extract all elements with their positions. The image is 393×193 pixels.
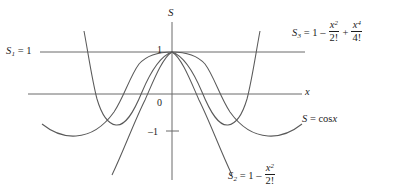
cos-symbol: S [302, 113, 307, 124]
origin-label: 0 [157, 98, 162, 108]
s1-symbol: S [6, 45, 11, 56]
s2-subscript: 2 [234, 175, 238, 183]
y-axis-label: S [168, 7, 174, 18]
x-axis-label: x [305, 87, 310, 98]
cos-equals: = [310, 113, 316, 124]
s3-first-fraction-denominator: 2! [329, 32, 340, 43]
s2-symbol: S [228, 170, 233, 181]
s3-minus-operator: – [320, 27, 325, 38]
s3-first-fraction-numerator: x2 [329, 20, 340, 32]
s3-equals: = [304, 27, 310, 38]
label-s3: S3 = 1 – x2 2! + x4 4! [292, 20, 363, 43]
y-tick-label-negative-one: –1 [148, 127, 158, 137]
s2-fraction-denominator: 2! [265, 175, 276, 186]
s3-second-fraction-denominator: 4! [351, 32, 362, 43]
s1-value: 1 [26, 45, 31, 56]
s2-num-exponent: 2 [271, 162, 274, 169]
s1-subscript: 1 [12, 50, 16, 58]
s2-fraction-numerator: x2 [265, 163, 276, 175]
s3-lead-term: 1 [312, 27, 317, 38]
label-cosine: S = cosx [302, 114, 337, 125]
label-s2: S2 = 1 – x2 2! [228, 163, 276, 186]
y-tick-label-one: 1 [157, 45, 162, 55]
s2-minus-operator: – [256, 170, 261, 181]
cos-function-name: cos [318, 113, 332, 124]
s2-lead-term: 1 [248, 170, 253, 181]
s3-second-fraction: x4 4! [351, 20, 362, 43]
s3-subscript: 3 [298, 32, 302, 40]
cos-argument: x [332, 113, 337, 124]
s3-first-fraction: x2 2! [329, 20, 340, 43]
s2-equals: = [240, 170, 246, 181]
s3-plus-operator: + [342, 27, 348, 38]
s3-symbol: S [292, 27, 297, 38]
s3-second-num-exponent: 4 [357, 19, 360, 26]
s2-fraction: x2 2! [265, 163, 276, 186]
label-s1: S1 = 1 [6, 46, 32, 58]
s1-equals: = [18, 45, 24, 56]
s3-first-num-exponent: 2 [335, 19, 338, 26]
s3-second-fraction-numerator: x4 [351, 20, 362, 32]
